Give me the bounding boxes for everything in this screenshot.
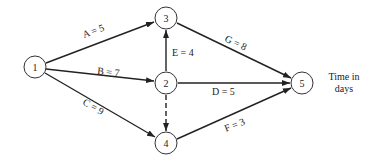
node-4: 4 (155, 132, 177, 154)
network-diagram: A = 5 B = 7 C = 9 E = 4 D = 5 G = 8 F = … (0, 0, 378, 161)
label-g: G = 8 (223, 33, 248, 53)
svg-text:2: 2 (164, 78, 169, 89)
label-c: C = 9 (81, 96, 106, 117)
svg-text:4: 4 (164, 138, 169, 149)
label-a: A = 5 (81, 22, 106, 40)
label-b: B = 7 (97, 65, 120, 78)
node-5: 5 (291, 72, 313, 94)
time-unit-note-line2: days (335, 83, 353, 94)
svg-text:5: 5 (300, 78, 305, 89)
label-f: F = 3 (223, 116, 247, 134)
label-e: E = 4 (172, 47, 194, 58)
svg-text:1: 1 (33, 62, 38, 73)
node-2: 2 (155, 72, 177, 94)
edge-g (177, 23, 291, 78)
svg-text:3: 3 (164, 13, 169, 24)
time-unit-note-line1: Time in (328, 71, 359, 82)
label-d: D = 5 (212, 86, 235, 97)
node-3: 3 (155, 7, 177, 29)
node-1: 1 (24, 56, 46, 78)
